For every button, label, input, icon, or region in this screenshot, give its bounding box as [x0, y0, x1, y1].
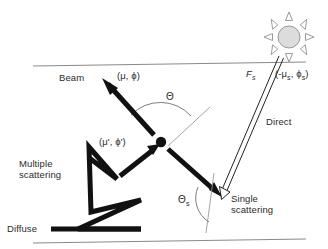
top-boundary-line [33, 62, 306, 66]
label-direct: Direct [266, 116, 291, 127]
label-single-scattering-line2: scattering [231, 204, 273, 215]
label-solar-direction: (-μs, ϕs) [275, 68, 309, 79]
label-multiple-scattering-line2: scattering [19, 169, 61, 180]
label-single-scattering: Singlescattering [231, 193, 273, 215]
theta-s-arc [196, 187, 209, 222]
label-solar-flux-subscript: s [252, 74, 256, 81]
bottom-boundary-line [33, 239, 306, 243]
label-theta-s-subscript: s [186, 200, 190, 207]
multiple-scattering-path [78, 147, 141, 229]
scattering-diagram: Beam (μ, ϕ) Θ (μ', ϕ') Multiplescatterin… [0, 0, 328, 249]
theta-arc [131, 102, 191, 116]
label-theta-s: Θs [178, 194, 190, 205]
label-theta: Θ [166, 91, 174, 102]
label-solar-direction-mid: , ϕ [291, 68, 302, 79]
label-solar-direction-close: ) [305, 68, 308, 79]
scatter-point-dot [156, 137, 166, 147]
label-solar-direction-open: (-μ [275, 68, 287, 79]
label-solar-flux: Fs [246, 68, 256, 79]
label-theta-s-symbol: Θ [178, 194, 186, 205]
label-multiple-scattering-line1: Multiple [19, 158, 53, 169]
label-multiple-scattering: Multiplescattering [19, 158, 61, 180]
label-beam: Beam [59, 72, 84, 83]
multiple-scattering-arrow [120, 144, 160, 176]
label-mu-phi: (μ, ϕ) [117, 70, 140, 81]
theta-reference-line [168, 107, 210, 146]
label-single-scattering-line1: Single [231, 193, 258, 204]
label-diffuse: Diffuse [7, 223, 37, 234]
incident-beam-arrow [102, 78, 154, 135]
sun-icon [264, 12, 314, 62]
label-mu-phi-prime: (μ', ϕ') [99, 136, 126, 147]
